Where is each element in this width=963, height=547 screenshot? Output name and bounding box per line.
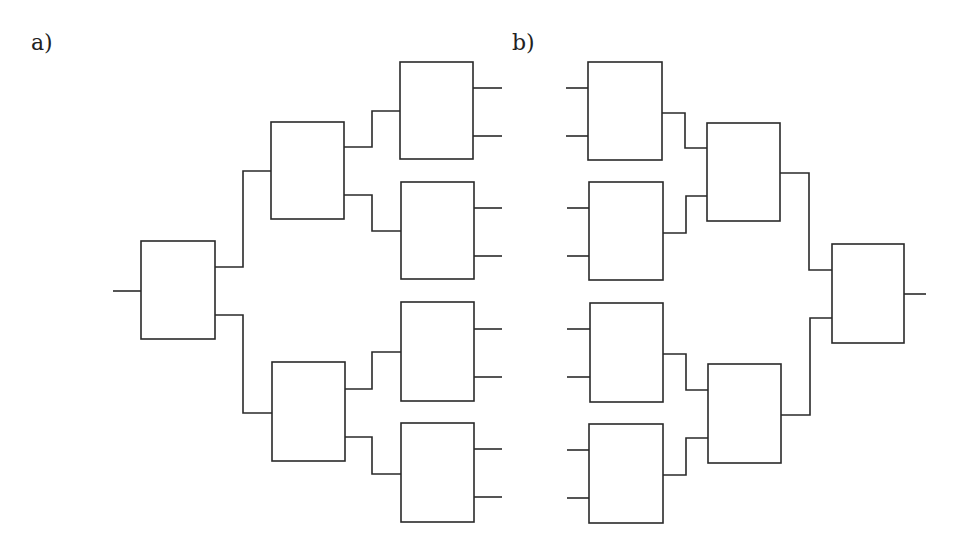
node-box-l1-top — [707, 123, 780, 221]
connector-line — [344, 195, 401, 231]
node-box-leaf-1 — [400, 62, 473, 159]
connector-line — [663, 354, 708, 390]
node-box-l1-bottom — [708, 364, 781, 463]
node-box-leaf-1 — [588, 62, 662, 160]
fan-in-tree — [566, 62, 926, 523]
connector-line — [663, 196, 707, 233]
node-box-l1-bottom — [272, 362, 345, 461]
connector-line — [663, 438, 708, 475]
node-box-leaf-4 — [401, 423, 474, 522]
connector-line — [662, 113, 707, 148]
connector-line — [781, 318, 832, 415]
connector-line — [215, 315, 272, 413]
connector-line — [345, 352, 401, 389]
node-box-leaf-2 — [589, 182, 663, 280]
node-box-leaf-4 — [589, 424, 663, 523]
connector-line — [344, 111, 400, 147]
node-box-l1-top — [271, 122, 344, 219]
connector-line — [345, 437, 401, 474]
connector-line — [215, 171, 271, 267]
node-box-root — [832, 244, 904, 343]
node-box-leaf-3 — [590, 303, 663, 402]
node-box-leaf-3 — [401, 302, 474, 401]
connector-line — [780, 173, 832, 270]
node-box-root — [141, 241, 215, 339]
node-box-leaf-2 — [401, 182, 474, 279]
tree-diagrams — [0, 0, 963, 547]
fan-out-tree — [113, 62, 502, 522]
